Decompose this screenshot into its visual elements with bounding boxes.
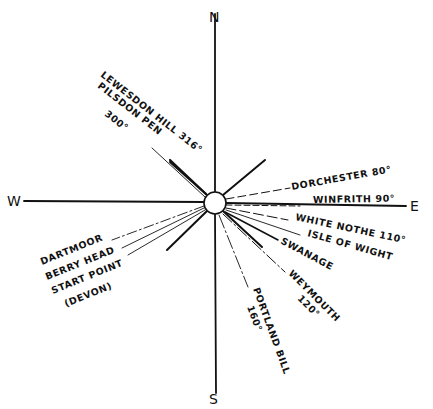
south-label: S [209, 391, 218, 407]
label-dorchester: DORCHESTER 80° [290, 164, 392, 192]
center-circle [204, 192, 226, 214]
bearing-line-dartmoor [112, 206, 204, 240]
west-label: W [7, 193, 21, 209]
bearing-line-weymouth [223, 214, 285, 272]
north-south-axis-lower [215, 214, 216, 393]
bearing-line-portland [219, 215, 248, 287]
label-winfrith: WINFRITH 90° [313, 193, 395, 205]
spoke-ne [223, 160, 265, 195]
west-east-axis [24, 201, 204, 202]
east-label: E [410, 198, 419, 214]
compass-diagram: N S E W LEWESDON HILL 316° PILSDON PEN 3… [0, 0, 433, 409]
bearing-line-lewesdon [170, 160, 206, 194]
bearing-line-pilsdon [152, 148, 205, 197]
spoke-sw [167, 211, 207, 250]
bearing-line-winfrith [226, 205, 300, 206]
bearing-line-dorchester [226, 188, 290, 199]
north-label: N [209, 9, 219, 25]
bearing-line-start-point [128, 210, 205, 255]
bearing-line-berry-head [122, 208, 204, 248]
